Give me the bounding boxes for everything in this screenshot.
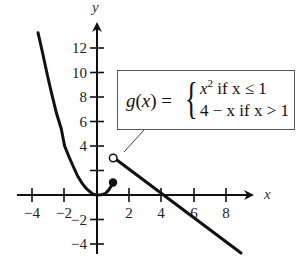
y-tick-label: −2	[71, 212, 87, 228]
y-axis-label: y	[90, 0, 99, 15]
x-tick-label: −2	[56, 205, 72, 221]
y-tick-label: −4	[71, 236, 87, 252]
y-tick-label: 6	[80, 114, 88, 130]
open-endpoint-circle	[109, 154, 117, 162]
y-tick-label: 12	[72, 40, 87, 56]
x-tick-label: 8	[222, 205, 230, 221]
x-tick-label: 2	[125, 205, 133, 221]
formula-lhs: g(x) =	[126, 90, 172, 112]
x-tick-label: −4	[24, 205, 40, 221]
closed-endpoint-dot	[109, 178, 117, 186]
formula-case-1: x2 if x ≤ 1	[200, 77, 267, 99]
formula-box: g(x) = { x2 if x ≤ 1 4 − x if x > 1	[117, 70, 295, 130]
formula-case-2: 4 − x if x > 1	[200, 101, 289, 121]
y-tick-label: 4	[80, 138, 88, 154]
x-axis-label: x	[263, 186, 271, 202]
callout-pointer	[124, 130, 144, 152]
graph-canvas: −4 −2 2 4 6 8 12 10 8 6 4 −2 −4 x y	[0, 0, 302, 260]
formula-brace: {	[185, 74, 198, 124]
y-tick-label: 10	[72, 65, 87, 81]
x-tick-label: 4	[157, 205, 165, 221]
y-tick-label: 8	[80, 89, 88, 105]
